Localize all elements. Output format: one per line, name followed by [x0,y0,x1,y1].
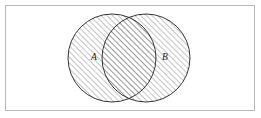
venn-diagram-figure: A B [0,0,261,118]
shaded-regions [68,14,190,102]
set-a-label: A [90,52,97,62]
set-b-label: B [162,52,168,62]
venn-diagram-canvas: A B [0,0,261,118]
